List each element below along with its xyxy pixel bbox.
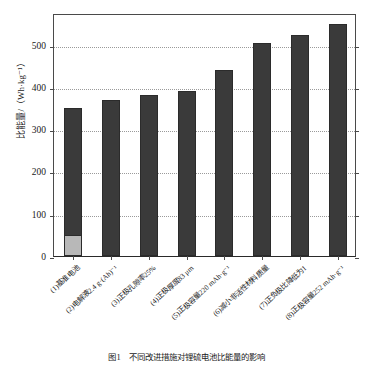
x-tick-label: (7)正负极比降低为1 — [237, 262, 308, 328]
x-tick-label: (8)正极容量252 mAh·g⁻¹ — [275, 262, 346, 328]
x-tick-labels: (1)基准电池(2)电解液2.4 g·(Ah)⁻¹(3)正极孔隙率25%(4)正… — [0, 0, 373, 368]
chart-figure: 比能量/（Wh·kg⁻¹） 0100200300400500 (1)基准电池(2… — [0, 0, 373, 368]
x-tick-label: (1)基准电池 — [10, 262, 81, 328]
x-tick-label: (2)电解液2.4 g·(Ah)⁻¹ — [48, 262, 119, 328]
figure-caption: 图1 不同改进措施对锂硫电池比能量的影响 — [0, 350, 373, 362]
x-tick-label: (5)正极容量220 mAh·g⁻¹ — [162, 262, 233, 328]
x-tick-label: (3)正极孔隙率25% — [86, 262, 157, 328]
x-tick-label: (6)减小非活性材料质量 — [199, 262, 270, 328]
x-tick-label: (4)正极厚度83 μm — [124, 262, 195, 328]
